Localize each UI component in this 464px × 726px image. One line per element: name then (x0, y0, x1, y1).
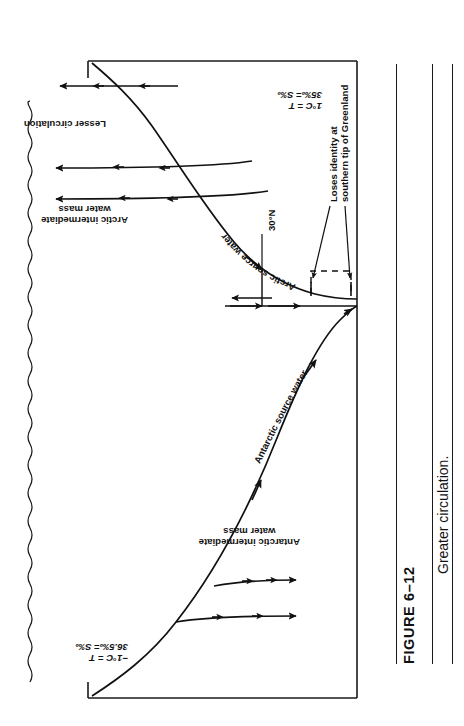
figure-number: FIGURE 6–12 (402, 566, 417, 664)
antarctic-flow-arrowheads (252, 309, 352, 500)
loses-identity-leaders (313, 206, 350, 278)
latitude-30n-label: 30°N (266, 210, 277, 231)
caption-rule-middle (432, 64, 433, 664)
arctic-intermediate-water-mass-label: Arctic intermediate water mass (41, 203, 128, 226)
figure-caption-text: Greater circulation. (436, 456, 450, 574)
loses-identity-label: Loses identity at southern tip of Greenl… (328, 85, 351, 202)
antarctic-source-water-curve (92, 306, 357, 696)
caption-rule-bottom (452, 64, 453, 664)
antarctic-intermediate-water-mass-label: Antarctic intermediate water mass (199, 525, 300, 548)
arctic-source-water-label: Arctic source water (218, 232, 297, 294)
antarctic-intermediate-arrow-outer (176, 616, 296, 622)
loses-identity-dashed-bracket (311, 271, 351, 294)
figure-caption-block: FIGURE 6–12 Greater circulation. (380, 0, 464, 726)
arctic-intermediate-arrow-inner (56, 191, 268, 199)
arctic-intermediate-arrow-outer (56, 161, 252, 168)
caption-rule-top (396, 64, 397, 664)
antarctic-source-water-label: Antarctic source water (252, 368, 310, 465)
antarctic-intermediate-arrow-inner (214, 580, 296, 586)
antarctic-temperature-salinity-label: −1°C = T 36.5‰= S‰ (75, 641, 128, 664)
rotated-figure-stage: Antarctic source water Arctic source wat… (0, 0, 464, 726)
figure-page: Antarctic source water Arctic source wat… (0, 0, 464, 726)
arctic-temperature-salinity-label: 1°C = T 35‰= S‰ (277, 89, 322, 112)
figure-frame (88, 61, 357, 698)
lesser-circulation-label: Lesser circulation (24, 119, 106, 130)
sea-surface-wavy-line (28, 101, 32, 682)
